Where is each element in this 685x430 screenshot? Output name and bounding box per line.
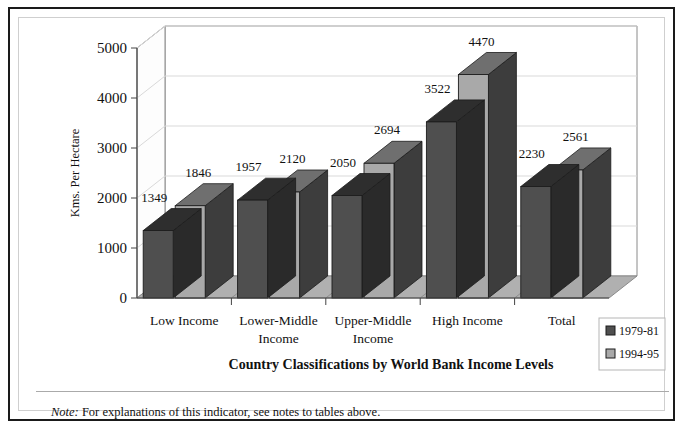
y-axis-tick-label: 2000 [97,190,127,206]
legend-swatch[interactable] [606,326,615,335]
note-body: For explanations of this indicator, see … [79,405,381,419]
bar-value-label: 2694 [374,122,401,137]
bar-side-face [394,141,422,298]
y-axis-tick-label: 4000 [97,90,127,106]
bar-side-face [456,100,484,298]
note-divider [36,391,669,392]
bar-chart: 010002000300040005000Kms. Per Hectare134… [19,18,668,414]
x-axis-category-label: High Income [432,313,503,328]
bar-front-face[interactable] [426,122,456,298]
bar-value-label: 2561 [563,129,589,144]
bar-value-label: 1349 [141,190,167,205]
x-axis-category-label: Low Income [150,313,219,328]
y-axis-title: Kms. Per Hectare [68,128,82,217]
legend-label: 1979-81 [619,324,659,338]
legend-swatch[interactable] [606,349,615,358]
bar-value-label: 4470 [468,34,494,49]
chart-title: Country Classifications by World Bank In… [229,357,554,372]
figure-outer-frame: 010002000300040005000Kms. Per Hectare134… [8,7,675,421]
x-axis-category-label: Income [353,331,393,346]
x-axis-category-label: Lower-Middle [239,313,317,328]
bar-value-label: 2120 [280,151,306,166]
x-axis-category-label: Total [548,313,576,328]
bar-side-face [488,53,516,299]
bar-value-label: 3522 [424,81,450,96]
bar-value-label: 1846 [185,165,212,180]
bar-side-face [583,148,611,298]
bar-front-face[interactable] [143,231,173,298]
bar-side-face [551,165,579,299]
bar-front-face[interactable] [332,196,362,299]
y-axis-tick-label: 5000 [97,40,127,56]
y-axis-tick-label: 3000 [97,140,127,156]
y-axis-tick-label: 1000 [97,240,127,256]
x-axis-category-label: Upper-Middle [335,313,412,328]
bar-value-label: 2050 [330,155,356,170]
figure-note: Note: For explanations of this indicator… [51,405,380,420]
bar-value-label: 1957 [236,159,263,174]
figure-inner-frame: 010002000300040005000Kms. Per Hectare134… [18,17,665,411]
y-axis-tick-label: 0 [120,290,128,306]
x-axis-category-label: Income [258,331,298,346]
bar-value-label: 2230 [519,146,545,161]
note-label: Note: [51,405,79,419]
bar-front-face[interactable] [521,187,551,299]
bar-front-face[interactable] [238,200,268,298]
legend-label: 1994-95 [619,347,659,361]
